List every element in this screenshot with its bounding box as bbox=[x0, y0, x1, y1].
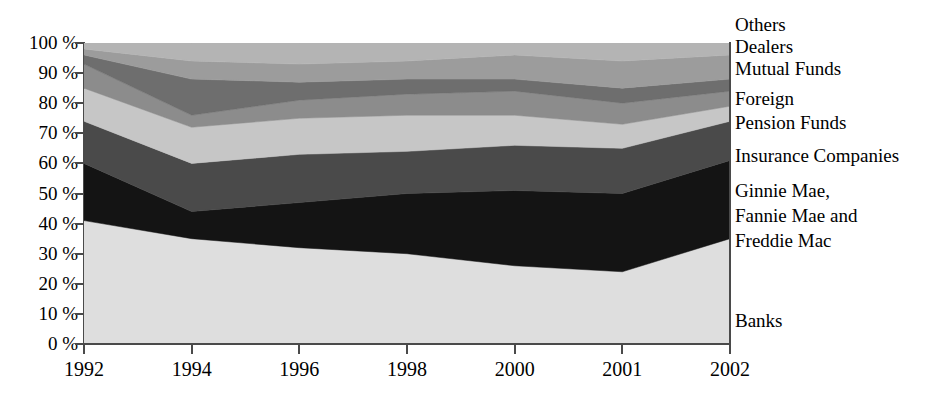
x-axis-tick-mark bbox=[729, 345, 731, 354]
y-axis-tick-mark bbox=[75, 72, 84, 74]
plot-area bbox=[84, 43, 730, 344]
y-axis-tick-mark bbox=[75, 42, 84, 44]
x-axis-tick-label: 1998 bbox=[362, 358, 452, 380]
y-axis-tick-label: 30 % bbox=[38, 244, 78, 263]
x-axis-tick-label: 2000 bbox=[470, 358, 560, 380]
y-axis-tick-label: 0 % bbox=[48, 334, 78, 353]
y-axis-tick-mark bbox=[75, 313, 84, 315]
y-axis-tick-label: 60 % bbox=[38, 153, 78, 172]
y-axis-tick-mark bbox=[75, 193, 84, 195]
x-axis-tick-mark bbox=[298, 345, 300, 354]
legend-label: Dealers bbox=[735, 36, 793, 57]
legend-label: Ginnie Mae, bbox=[735, 180, 830, 201]
y-axis-tick-mark bbox=[75, 102, 84, 104]
legend-label: Banks bbox=[735, 310, 783, 331]
legend-label: Freddie Mac bbox=[735, 230, 832, 251]
legend-label: Others bbox=[735, 14, 786, 35]
x-axis-tick-mark bbox=[191, 345, 193, 354]
y-axis-tick-mark bbox=[75, 132, 84, 134]
x-axis-tick-mark bbox=[406, 345, 408, 354]
y-axis-tick-mark bbox=[75, 253, 84, 255]
legend-label: Insurance Companies bbox=[735, 145, 899, 166]
area-series-group bbox=[84, 43, 730, 344]
y-axis-tick-mark bbox=[75, 283, 84, 285]
x-axis-tick-mark bbox=[83, 345, 85, 354]
x-axis-tick-label: 1996 bbox=[254, 358, 344, 380]
y-axis-tick-label: 40 % bbox=[38, 214, 78, 233]
legend-label: Pension Funds bbox=[735, 112, 846, 133]
x-axis-tick-label: 1994 bbox=[147, 358, 237, 380]
x-axis-tick-label: 1992 bbox=[39, 358, 129, 380]
x-axis-tick-mark bbox=[514, 345, 516, 354]
y-axis-tick-label: 10 % bbox=[38, 304, 78, 323]
y-axis-tick-mark bbox=[75, 162, 84, 164]
y-axis: 100 %90 %80 %70 %60 %50 %40 %30 %20 %10 … bbox=[0, 0, 78, 415]
x-axis-tick-mark bbox=[621, 345, 623, 354]
x-axis-tick-label: 2001 bbox=[577, 358, 667, 380]
stacked-area-chart: 100 %90 %80 %70 %60 %50 %40 %30 %20 %10 … bbox=[0, 0, 940, 415]
y-axis-tick-label: 50 % bbox=[38, 184, 78, 203]
y-axis-tick-label: 90 % bbox=[38, 63, 78, 82]
y-axis-tick-label: 80 % bbox=[38, 93, 78, 112]
legend-label: Mutual Funds bbox=[735, 58, 841, 79]
y-axis-tick-label: 100 % bbox=[29, 33, 78, 52]
y-axis-tick-label: 70 % bbox=[38, 123, 78, 142]
legend-label: Fannie Mae and bbox=[735, 205, 857, 226]
y-axis-tick-mark bbox=[75, 223, 84, 225]
x-axis-tick-label: 2002 bbox=[685, 358, 775, 380]
right-axis-line bbox=[729, 42, 731, 345]
y-axis-tick-label: 20 % bbox=[38, 274, 78, 293]
legend-label: Foreign bbox=[735, 88, 794, 109]
legend: OthersDealersMutual FundsForeignPension … bbox=[735, 0, 940, 415]
